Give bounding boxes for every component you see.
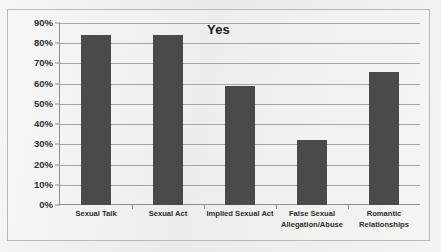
x-category-label: RomanticRelationships: [348, 209, 420, 230]
y-tick-label: 60%: [20, 79, 53, 89]
y-axis-tick-labels: 0%10%20%30%40%50%60%70%80%90%: [20, 23, 53, 205]
y-tick-mark: [55, 164, 60, 165]
y-tick-label: 90%: [20, 18, 53, 28]
bar: [225, 86, 255, 205]
y-tick-label: 40%: [20, 119, 53, 129]
x-category-label: Sexual Talk: [60, 209, 132, 220]
y-tick-label: 80%: [20, 38, 53, 48]
x-category-label: False SexualAllegation/Abuse: [276, 209, 348, 230]
x-axis-category-labels: Sexual TalkSexual ActImplied Sexual ActF…: [60, 209, 420, 241]
plot-area: [60, 23, 420, 205]
y-tick-mark: [55, 43, 60, 44]
y-tick-mark: [55, 205, 60, 206]
bar: [369, 72, 399, 205]
x-category-label-line: Implied Sexual Act: [204, 209, 276, 220]
x-category-label: Implied Sexual Act: [204, 209, 276, 220]
page-background: Yes 0%10%20%30%40%50%60%70%80%90% Sexual…: [0, 0, 441, 252]
y-tick-label: 10%: [20, 180, 53, 190]
y-tick-mark: [55, 63, 60, 64]
y-tick-mark: [55, 144, 60, 145]
y-tick-label: 30%: [20, 140, 53, 150]
bar: [81, 35, 111, 205]
y-tick-label: 50%: [20, 99, 53, 109]
y-tick-label: 70%: [20, 59, 53, 69]
bar: [297, 140, 327, 205]
y-tick-mark: [55, 23, 60, 24]
y-tick-mark: [55, 124, 60, 125]
gridline: [60, 23, 420, 24]
y-axis-line: [59, 23, 60, 205]
chart-frame: Yes 0%10%20%30%40%50%60%70%80%90% Sexual…: [7, 9, 430, 241]
y-tick-label: 0%: [20, 200, 53, 210]
x-category-label-line: Allegation/Abuse: [276, 220, 348, 231]
x-category-label-line: Sexual Talk: [60, 209, 132, 220]
x-category-label-line: False Sexual: [276, 209, 348, 220]
x-category-label-line: Relationships: [348, 220, 420, 231]
gridline: [60, 63, 420, 64]
y-tick-mark: [55, 184, 60, 185]
y-tick-label: 20%: [20, 160, 53, 170]
x-category-label-line: Sexual Act: [132, 209, 204, 220]
gridline: [60, 43, 420, 44]
x-category-label-line: Romantic: [348, 209, 420, 220]
y-tick-mark: [55, 83, 60, 84]
x-category-label: Sexual Act: [132, 209, 204, 220]
bar: [153, 35, 183, 205]
y-tick-mark: [55, 103, 60, 104]
